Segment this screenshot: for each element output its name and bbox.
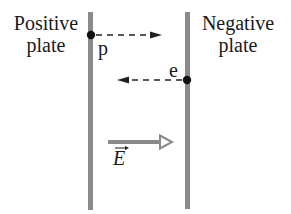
positive-plate-label: Positive plate	[8, 12, 84, 56]
arrow-left-icon	[117, 77, 129, 84]
negative-plate-label: Negative plate	[196, 12, 280, 56]
positive-plate	[88, 12, 93, 210]
hollow-arrowhead-icon	[160, 136, 172, 149]
electric-field-label: E	[113, 148, 125, 168]
negative-plate	[185, 12, 190, 209]
arrow-right-icon	[150, 32, 162, 39]
positive-plate-label-line1: Positive	[8, 12, 84, 34]
positive-plate-label-line2: plate	[8, 34, 84, 56]
electron-arrow	[117, 76, 191, 84]
proton-label: p	[98, 38, 108, 58]
electron-label: e	[169, 60, 178, 80]
negative-plate-label-line2: plate	[196, 34, 280, 56]
negative-plate-label-line1: Negative	[196, 12, 280, 34]
